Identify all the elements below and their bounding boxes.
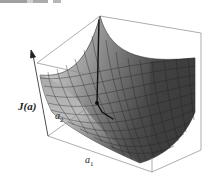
arrow-up-icon <box>31 50 36 58</box>
a1-axis-label: a1 <box>85 154 94 168</box>
a2-axis-label: a2 <box>55 110 64 124</box>
z-axis-label: J(a) <box>18 100 36 112</box>
surface-plot <box>0 0 211 189</box>
